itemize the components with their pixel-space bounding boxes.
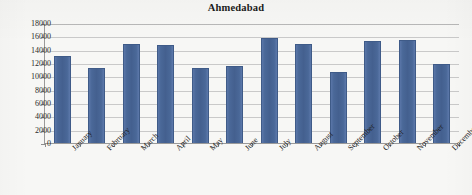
y-axis-tick-label: 12000 — [11, 60, 51, 68]
x-axis-label-august: August — [312, 146, 318, 152]
bar-september — [330, 72, 347, 143]
y-axis-tick-label: 2000 — [11, 127, 51, 135]
bar-june — [226, 66, 243, 143]
y-axis-tick-label: 14000 — [11, 47, 51, 55]
y-axis-tick-label: 18000 — [11, 20, 51, 28]
x-axis-label-september: September — [346, 146, 352, 152]
y-axis-tick-label: 10000 — [11, 73, 51, 81]
chart-title: Ahmedabad — [0, 2, 472, 13]
x-axis-label-may: May — [208, 146, 214, 152]
gridline — [45, 37, 459, 38]
x-axis-label-june: June — [243, 146, 249, 152]
x-axis-label-october: October — [381, 146, 387, 152]
x-axis-label-february: February — [105, 146, 111, 152]
bar-august — [295, 44, 312, 143]
y-axis-tick-label: 6000 — [11, 100, 51, 108]
x-axis-label-november: November — [415, 146, 421, 152]
x-axis-label-december: December — [450, 146, 456, 152]
bar-january — [54, 56, 71, 143]
x-axis-label-april: April — [174, 146, 180, 152]
gridline — [45, 51, 459, 52]
gridline — [45, 77, 459, 78]
bar-november — [399, 40, 416, 143]
gridline — [45, 117, 459, 118]
y-axis-tick-label: 4000 — [11, 113, 51, 121]
y-axis-tick-label: 16000 — [11, 33, 51, 41]
bar-chart-figure: Ahmedabad 180001600014000120001000080006… — [0, 0, 472, 195]
bar-july — [261, 38, 278, 143]
gridline — [45, 64, 459, 65]
gridline — [45, 104, 459, 105]
bar-may — [192, 68, 209, 143]
gridline — [45, 91, 459, 92]
bar-april — [157, 45, 174, 143]
gridline — [45, 24, 459, 25]
plot-area — [44, 24, 458, 144]
x-axis-label-july: July — [277, 146, 283, 152]
x-axis-label-january: January — [70, 146, 76, 152]
y-axis-tick-label: 8000 — [11, 87, 51, 95]
x-axis-label-march: March — [139, 146, 145, 152]
x-axis-labels: JanuaryFebruaryMarchAprilMayJuneJulyAugu… — [44, 146, 458, 195]
